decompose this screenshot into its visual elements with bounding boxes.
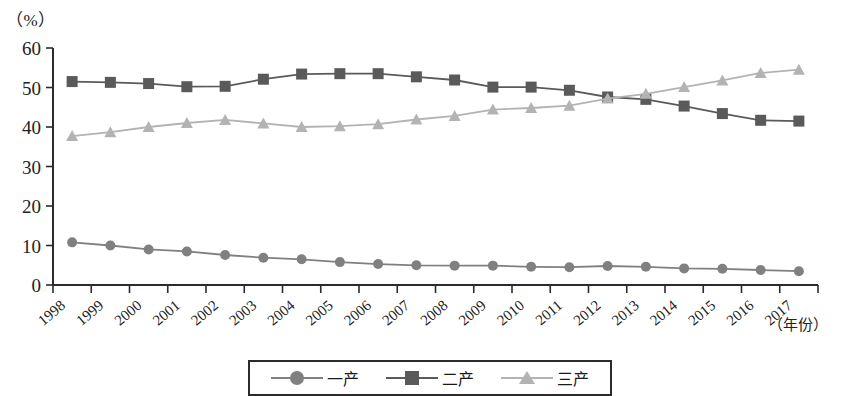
square-marker-icon [386,371,438,385]
x-tick-label: 2011 [532,297,565,328]
data-point-marker [756,265,766,275]
x-tick-label: 2013 [609,297,642,329]
data-point-marker [641,262,651,272]
data-point-marker [793,116,804,127]
triangle-marker-icon [501,371,553,385]
x-tick-labels: 1998199920002001200220032004200520062007… [35,297,795,329]
x-tick-label: 1998 [35,297,68,329]
legend-label-tertiary: 三产 [557,366,589,390]
x-tick-label: 2010 [494,297,527,329]
data-point-marker [488,261,498,271]
circle-marker-icon [271,371,323,385]
series-三产 [66,64,805,141]
chart-legend: 一产 二产 三产 [248,360,612,396]
x-tick-label: 2006 [341,297,375,329]
x-tick-label: 2001 [150,297,183,329]
y-tick-labels: 0102030405060 [22,38,41,296]
data-point-marker [105,241,115,251]
y-tick-label: 20 [22,196,41,217]
data-point-marker [220,81,231,92]
data-point-marker [449,74,460,85]
data-point-marker [373,259,383,269]
data-point-marker [105,77,116,88]
data-point-marker [258,253,268,263]
y-tick-label: 50 [22,78,41,99]
y-tick-label: 30 [22,157,41,178]
data-point-marker [603,261,613,271]
y-tick-label: 40 [22,117,41,138]
data-point-marker [297,254,307,264]
x-tick-label: 1999 [73,297,106,329]
data-point-marker [334,68,345,79]
x-tick-label: 2016 [723,297,757,329]
x-tick-label: 2014 [647,297,681,329]
legend-item-primary: 一产 [271,366,359,390]
x-tick-label: 2008 [417,297,450,329]
data-point-marker [717,108,728,119]
data-point-marker [182,246,192,256]
data-point-marker [526,262,536,272]
legend-item-tertiary: 三产 [501,366,589,390]
data-point-marker [335,257,345,267]
y-tick-label: 10 [22,236,41,257]
x-tick-label: 2002 [188,297,221,329]
y-tick-label: 60 [22,38,41,59]
data-point-marker [181,81,192,92]
data-series-group [66,64,805,276]
data-point-marker [450,261,460,271]
data-point-marker [258,74,269,85]
data-point-marker [717,264,727,274]
y-tick-label: 0 [32,275,42,296]
x-tick-label: 2015 [685,297,718,329]
series-line [72,74,799,121]
legend-label-secondary: 二产 [442,366,474,390]
data-point-marker [679,263,689,273]
data-point-marker [564,262,574,272]
data-point-marker [144,244,154,254]
data-point-marker [296,69,307,80]
series-line [72,242,799,271]
y-tick-group [46,48,53,285]
legend-label-primary: 一产 [327,366,359,390]
x-tick-label: 2004 [264,297,298,329]
data-point-marker [794,266,804,276]
data-point-marker [526,82,537,93]
series-line [72,70,799,136]
x-tick-label: 2007 [379,297,413,329]
legend-item-secondary: 二产 [386,366,474,390]
x-tick-label: 2009 [456,297,489,329]
series-一产 [67,237,804,276]
data-point-marker [679,101,690,112]
data-point-marker [67,237,77,247]
data-point-marker [373,68,384,79]
x-axis-unit-label: （年份） [768,313,828,334]
data-point-marker [220,250,230,260]
x-tick-label: 2005 [303,297,336,329]
data-point-marker [67,76,78,87]
data-point-marker [487,82,498,93]
data-point-marker [564,85,575,96]
x-tick-label: 2012 [570,297,603,329]
x-tick-label: 2003 [226,297,259,329]
x-tick-label: 2000 [111,297,144,329]
data-point-marker [411,71,422,82]
data-point-marker [755,115,766,126]
data-point-marker [411,260,421,270]
x-tick-group [53,285,818,293]
data-point-marker [143,78,154,89]
